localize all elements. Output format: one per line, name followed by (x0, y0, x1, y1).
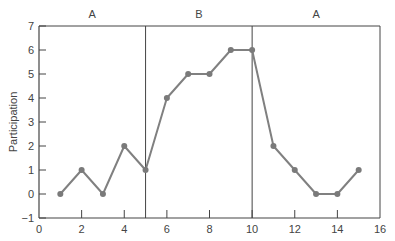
x-tick-label: 14 (331, 223, 343, 235)
x-tick-label: 4 (121, 223, 127, 235)
y-tick-label: 0 (28, 188, 34, 200)
phase-label: A (312, 8, 320, 20)
phase-dividers (146, 26, 253, 218)
phase-label: B (195, 8, 202, 20)
data-point-marker (292, 167, 298, 173)
data-point-marker (57, 191, 63, 197)
data-point-marker (100, 191, 106, 197)
y-tick-label: 4 (28, 92, 34, 104)
data-point-marker (228, 47, 234, 53)
y-tick-label: −1 (21, 212, 34, 224)
data-point-marker (164, 95, 170, 101)
line-chart: ABA −1012345670246810121416 Participatio… (0, 0, 395, 241)
data-point-marker (143, 167, 149, 173)
data-point-marker (185, 71, 191, 77)
y-tick-label: 7 (28, 20, 34, 32)
x-tick-label: 2 (79, 223, 85, 235)
x-tick-label: 0 (36, 223, 42, 235)
data-series (57, 47, 361, 197)
data-point-marker (207, 71, 213, 77)
axis-ticks: −1012345670246810121416 (21, 20, 386, 235)
y-tick-label: 2 (28, 140, 34, 152)
y-tick-label: 3 (28, 116, 34, 128)
phase-labels: ABA (89, 8, 321, 20)
x-tick-label: 10 (246, 223, 258, 235)
x-tick-label: 8 (206, 223, 212, 235)
y-axis-label: Participation (7, 92, 19, 153)
y-tick-label: 6 (28, 44, 34, 56)
data-point-marker (79, 167, 85, 173)
data-point-marker (356, 167, 362, 173)
data-point-marker (270, 143, 276, 149)
axes (39, 26, 380, 218)
data-point-marker (249, 47, 255, 53)
x-tick-label: 6 (164, 223, 170, 235)
phase-label: A (89, 8, 97, 20)
data-point-marker (313, 191, 319, 197)
x-tick-label: 16 (374, 223, 386, 235)
y-tick-label: 5 (28, 68, 34, 80)
data-point-marker (334, 191, 340, 197)
data-point-marker (121, 143, 127, 149)
x-tick-label: 12 (289, 223, 301, 235)
y-tick-label: 1 (28, 164, 34, 176)
